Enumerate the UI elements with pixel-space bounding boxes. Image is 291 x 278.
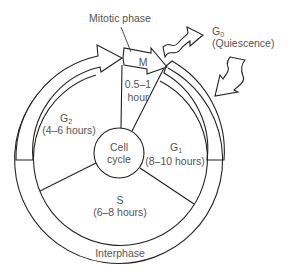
m-duration-line2: hour: [127, 91, 149, 103]
g1-duration: (8–10 hours): [145, 155, 205, 167]
mitotic-phase-label: Mitotic phase: [89, 12, 151, 24]
s-duration: (6–8 hours): [93, 206, 147, 218]
divider-s-g2: [40, 163, 96, 191]
g0-return-arrow: [215, 57, 245, 96]
g2-duration: (4–6 hours): [42, 124, 96, 136]
m-phase-label: M: [139, 56, 148, 68]
g0-exit-arrow: [163, 27, 203, 57]
divider-g2-m: [121, 65, 122, 128]
interphase-label: Interphase: [95, 247, 145, 259]
m-duration-line1: 0.5–1: [125, 78, 151, 90]
g1-label: G1: [170, 141, 182, 154]
g0-description: (Quiescence): [212, 37, 274, 49]
cell-cycle-diagram: Mitotic phase M 0.5–1 hour G2 (4–6 hours…: [0, 0, 291, 278]
center-label-line1: Cell: [110, 141, 128, 153]
center-label-line2: cycle: [107, 153, 131, 165]
s-label: S: [116, 194, 123, 206]
divider-g1-s: [140, 168, 194, 204]
